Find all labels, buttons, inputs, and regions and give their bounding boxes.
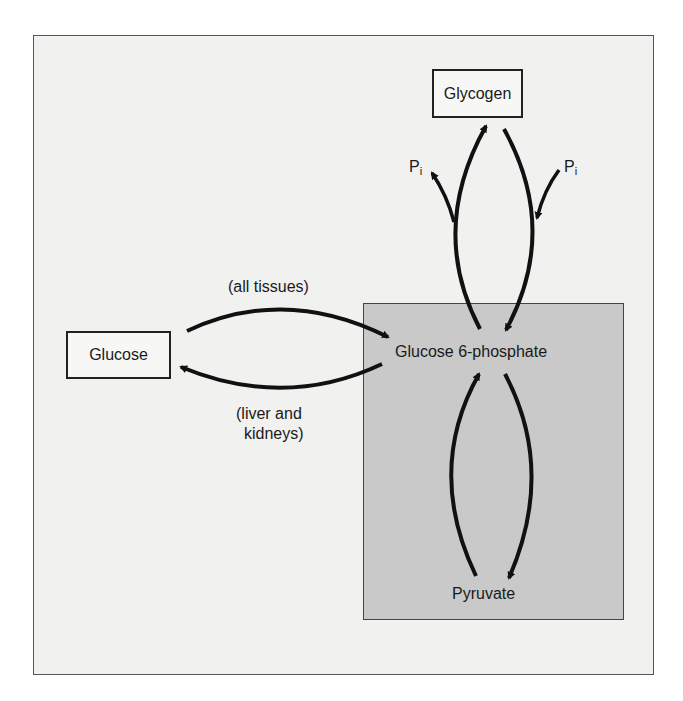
arrow-pi-input <box>537 170 559 218</box>
arrow-g6p-to-pyruvate <box>505 374 532 578</box>
arrow-g6p-to-glucose <box>181 364 382 388</box>
arrow-pi-release <box>432 173 454 222</box>
arrows-layer <box>0 0 683 701</box>
arrow-glycogen-to-g6p <box>504 129 533 330</box>
arrow-glucose-to-g6p <box>187 309 388 337</box>
arrow-pyruvate-to-g6p <box>451 374 479 576</box>
arrow-g6p-to-glycogen <box>455 126 486 329</box>
